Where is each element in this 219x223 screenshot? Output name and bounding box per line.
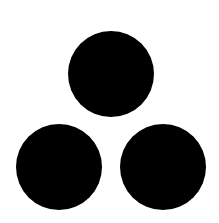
bottom-left-circle	[16, 124, 102, 210]
bottom-right-circle	[120, 124, 206, 210]
top-circle	[68, 31, 154, 117]
three-circles-graphic	[0, 0, 219, 223]
